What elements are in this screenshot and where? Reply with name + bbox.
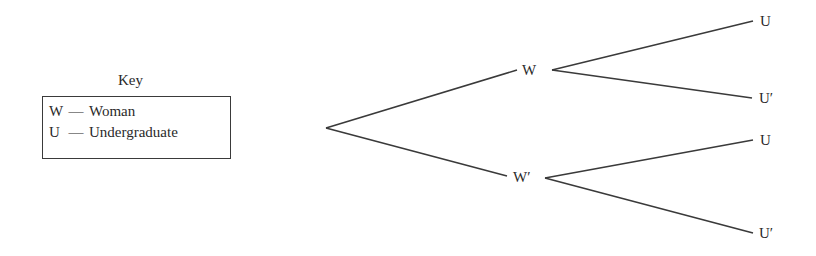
node-w-u-prime: U′: [759, 91, 773, 106]
branch-w-prime-to-u: [545, 140, 753, 178]
node-w-prime-u-prime: U′: [759, 226, 773, 241]
node-w-prime: W′: [513, 170, 530, 185]
branch-w-prime-to-u-prime: [545, 178, 753, 233]
node-w-prime-u: U: [760, 133, 771, 148]
tree-diagram: [0, 0, 816, 256]
branch-root-to-w: [326, 70, 517, 128]
branch-w-to-u-prime: [552, 70, 752, 98]
branch-root-to-w-prime: [326, 128, 507, 176]
node-w-u: U: [760, 14, 771, 29]
branch-w-to-u: [552, 21, 753, 70]
node-w: W: [522, 63, 536, 78]
